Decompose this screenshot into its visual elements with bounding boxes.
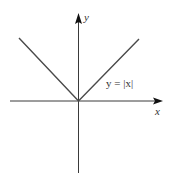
x-axis-label: x <box>154 105 160 117</box>
function-label: y = |x| <box>106 77 133 89</box>
plot-canvas: y x y = |x| <box>0 0 175 183</box>
y-axis-label: y <box>83 11 89 23</box>
